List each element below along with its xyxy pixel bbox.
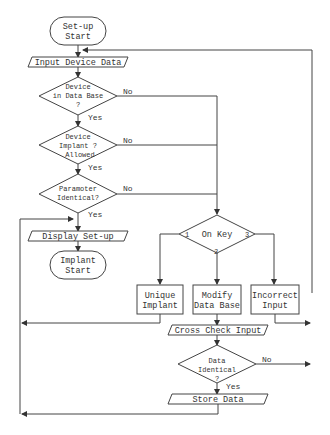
data-identical-line2: Identical — [198, 366, 236, 374]
implant-start-line2: Start — [65, 266, 91, 276]
store-data-label: Store Data — [192, 395, 243, 405]
decision-device-in-db: Device in Data Base ? — [39, 77, 117, 115]
no-label-4: No — [262, 355, 272, 364]
on-key-option-3: 3 — [245, 231, 249, 239]
decision-parameter-identical: Paramoter Identical? — [39, 174, 117, 213]
display-setup: Display Set-up — [28, 231, 128, 242]
implant-start-line1: Implant — [60, 256, 96, 266]
modify-db-line1: Modify — [202, 291, 233, 301]
yes-label-3: Yes — [88, 210, 103, 219]
decision-implant-allowed: Device Implant ? Allowed — [39, 126, 117, 164]
flowchart: Set-up Start Input Device Data Device in… — [0, 0, 330, 435]
on-key-option-1: 1 — [185, 231, 189, 239]
device-in-db-line1: Device — [65, 83, 90, 91]
setup-start-terminator: Set-up Start — [50, 17, 106, 45]
incorrect-input-line1: Incorrect — [252, 291, 298, 301]
data-identical-line1: Data — [209, 357, 226, 365]
implant-allowed-line3: Allowed — [65, 151, 94, 159]
setup-start-line1: Set-up — [63, 22, 94, 32]
on-key-option-2: 2 — [214, 248, 218, 256]
unique-implant-box: Unique Implant — [137, 285, 183, 314]
unique-implant-line1: Unique — [145, 291, 176, 301]
modify-db-box: Modify Data Base — [193, 285, 241, 314]
yes-label-1: Yes — [88, 113, 103, 122]
incorrect-input-line2: Input — [262, 301, 288, 311]
no-label-2: No — [123, 136, 133, 145]
incorrect-input-box: Incorrect Input — [251, 285, 299, 314]
input-device-data: Input Device Data — [28, 57, 128, 68]
cross-check-input-label: Cross Check Input — [175, 326, 262, 336]
parameter-identical-line1: Paramoter — [59, 185, 97, 193]
on-key-label: On Key — [202, 230, 233, 240]
loop-left-connector — [20, 219, 73, 399]
data-identical-line3: ? — [215, 375, 219, 383]
cross-check-input: Cross Check Input — [168, 325, 268, 336]
unique-implant-line2: Implant — [142, 301, 178, 311]
no-label-3: No — [123, 184, 133, 193]
implant-start-terminator: Implant Start — [50, 251, 106, 279]
implant-allowed-line2: Implant ? — [59, 142, 97, 150]
display-setup-label: Display Set-up — [42, 232, 113, 242]
input-device-data-label: Input Device Data — [35, 58, 122, 68]
decision-data-identical: Data Identical ? — [178, 345, 256, 383]
implant-allowed-line1: Device — [65, 133, 90, 141]
loop-top-connector — [83, 50, 312, 293]
device-in-db-line2: in Data Base — [53, 92, 103, 100]
setup-start-line2: Start — [65, 32, 91, 42]
modify-db-line2: Data Base — [194, 301, 240, 311]
no-label-1: No — [123, 87, 133, 96]
device-in-db-line3: ? — [76, 101, 80, 109]
yes-label-4: Yes — [226, 382, 241, 391]
decision-on-key: On Key 1 2 3 — [179, 215, 255, 256]
store-data: Store Data — [168, 394, 268, 405]
yes-label-2: Yes — [88, 163, 103, 172]
parameter-identical-line2: Identical? — [57, 194, 99, 202]
